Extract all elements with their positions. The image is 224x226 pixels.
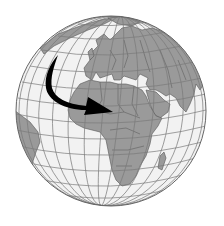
- globe-figure: [0, 0, 224, 226]
